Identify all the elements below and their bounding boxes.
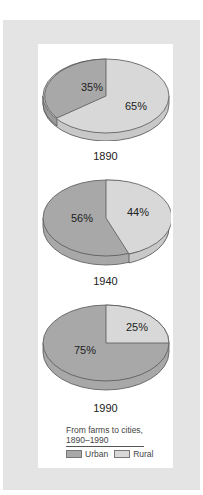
legend-swatch-urban: [66, 450, 82, 458]
year-label-1940: 1940: [38, 275, 173, 287]
pie-1940: 56% 44%: [41, 172, 176, 272]
label-rural-1940: 44%: [127, 206, 149, 218]
legend-swatch-rural: [114, 450, 130, 458]
label-rural-1890: 65%: [125, 100, 147, 112]
year-label-1890: 1890: [38, 150, 173, 162]
caption-divider: [66, 446, 144, 447]
pie-1890: 35% 65%: [41, 46, 176, 141]
caption-line-2: 1890–1990: [66, 435, 143, 445]
caption-line-1: From farms to cities,: [66, 425, 143, 435]
label-urban-1990: 75%: [74, 344, 96, 356]
label-urban-1890: 35%: [81, 81, 103, 93]
pie-1990: 75% 25%: [41, 298, 176, 398]
legend-label-rural: Rural: [133, 449, 153, 459]
legend-label-urban: Urban: [85, 449, 108, 459]
label-urban-1940: 56%: [71, 212, 93, 224]
chart-caption: From farms to cities, 1890–1990: [66, 425, 143, 445]
legend: Urban Rural: [66, 449, 153, 459]
year-label-1990: 1990: [38, 402, 173, 414]
label-rural-1990: 25%: [126, 321, 148, 333]
